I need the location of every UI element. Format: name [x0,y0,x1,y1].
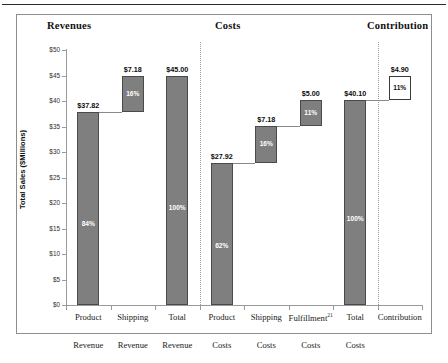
bar-product-revenue[interactable] [77,112,99,305]
bar-value-label-product-costs: $27.92 [192,152,252,161]
figure-caption-fragment [6,352,306,361]
waterfall-connector [233,163,256,164]
y-axis-tick-label: $5 [20,276,60,283]
y-axis-tick [62,50,66,51]
waterfall-connector [277,126,300,127]
bar-percent-label-fulfillment-costs: 11% [300,109,322,116]
y-axis-tick-label: $45 [20,72,60,79]
y-axis-tick [62,76,66,77]
y-axis-tick-label: $40 [20,97,60,104]
bar-percent-label-shipping-revenue: 16% [122,90,144,97]
bar-total-revenue[interactable] [166,76,188,306]
x-axis-tick [200,305,201,310]
section-divider [378,42,379,305]
x-axis-tick [155,305,156,310]
x-axis-tick [378,305,379,310]
x-axis-tick [244,305,245,310]
y-axis-tick [62,178,66,179]
y-axis-tick-label: $20 [20,199,60,206]
bar-value-label-shipping-costs: $7.18 [236,115,296,124]
y-axis-tick [62,280,66,281]
waterfall-plot-area: Total Sales ($Millions) $0$5$10$15$20$25… [0,0,448,363]
bar-percent-label-product-costs: 62% [211,242,233,249]
y-axis-line [66,49,67,306]
y-axis-tick-label: $15 [20,225,60,232]
y-axis-tick [62,203,66,204]
y-axis-tick-label: $30 [20,148,60,155]
bar-percent-label-total-revenue: 100% [166,204,188,211]
waterfall-connector [366,100,389,101]
section-divider [200,42,201,305]
y-axis-tick-label: $0 [20,301,60,308]
x-axis-tick [111,305,112,310]
x-axis-tick [333,305,334,310]
waterfall-connector [99,112,122,113]
bar-value-label-total-revenue: $45.00 [147,65,207,74]
y-axis-tick-label: $25 [20,174,60,181]
bar-percent-label-contribution: 11% [389,84,411,91]
x-axis-tick [422,305,423,310]
y-axis-tick-label: $35 [20,123,60,130]
bar-total-costs[interactable] [344,100,366,305]
y-axis-tick [62,152,66,153]
x-axis-tick [289,305,290,310]
bar-value-label-total-costs: $40.10 [325,89,385,98]
y-axis-tick [62,127,66,128]
figure-root: Revenues Costs Contribution Total Sales … [0,0,448,363]
y-axis-tick [62,254,66,255]
x-label-primary-contribution: Contribution [364,312,436,322]
x-axis-tick [66,305,67,310]
bar-value-label-product-revenue: $37.82 [58,101,118,110]
y-axis-tick-label: $50 [20,46,60,53]
bar-percent-label-shipping-costs: 16% [255,140,277,147]
y-axis-tick [62,229,66,230]
bar-percent-label-total-costs: 100% [344,215,366,222]
y-axis-tick-label: $10 [20,250,60,257]
bar-product-costs[interactable] [211,163,233,305]
bar-percent-label-product-revenue: 84% [77,220,99,227]
bar-value-label-contribution: $4.90 [370,65,430,74]
x-label-secondary-total-costs: Costs [319,340,391,350]
